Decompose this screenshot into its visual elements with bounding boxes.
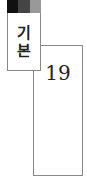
page-number: 19 [34,61,82,85]
color-swatch-strip [7,0,41,14]
section-tab[interactable]: 기 본 [7,13,41,71]
swatch-dark [7,0,18,14]
swatch-light [30,0,41,14]
swatch-medium [18,0,29,14]
tab-label-line1: 기 [17,24,31,42]
tab-label-line2: 본 [17,42,31,60]
